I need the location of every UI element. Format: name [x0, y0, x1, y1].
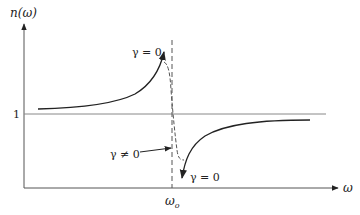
reference-level-label: 1 — [13, 108, 20, 121]
gamma-zero-upper-label: γ = 0 — [132, 46, 162, 59]
y-axis-label: n(ω) — [10, 6, 37, 20]
gamma-nonzero-pointer — [140, 148, 171, 152]
gamma-nonzero-label: γ ≠ 0 — [110, 148, 140, 161]
gamma-zero-lower-label: γ = 0 — [190, 171, 220, 184]
x-axis-label: ω — [343, 181, 353, 195]
left-curve-gamma-zero — [38, 52, 164, 109]
resonance-frequency-label: ωo — [165, 194, 180, 210]
damped-curve-gamma-nonzero — [164, 62, 184, 160]
refractive-index-diagram: n(ω) ω 1 γ = 0 γ = 0 γ ≠ 0 ωo — [0, 0, 360, 215]
right-curve-gamma-zero — [182, 120, 310, 178]
